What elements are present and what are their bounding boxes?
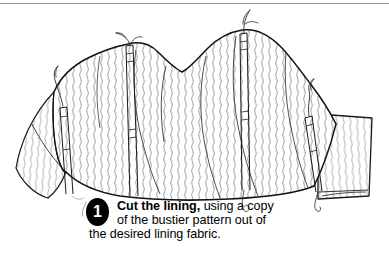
step-caption: 1 Cut the lining, using a copy of the bu… [86,196,296,248]
instruction-page: 1 Cut the lining, using a copy of the bu… [0,0,389,262]
step-number-badge: 1 [86,198,109,226]
caption-line-1-rest: using a copy [200,199,274,213]
caption-line-3: the desired lining fabric. [89,227,221,241]
caption-line-1: Cut the lining, using a copy [117,199,274,213]
caption-bold-lead: Cut the lining, [117,199,200,213]
bustier-body [40,20,360,220]
caption-line-2: of the bustier pattern out of [117,213,266,227]
stray-thread [72,196,86,216]
